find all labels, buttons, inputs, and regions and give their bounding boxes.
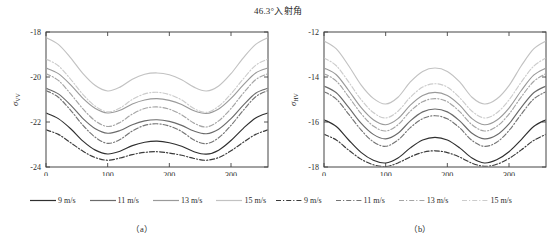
panel-b: -12-14-16-180100200300σHV风向/（°） <box>284 26 556 176</box>
x-tick-label: 200 <box>441 171 453 176</box>
legend-row: 9 m/s11 m/s13 m/s15 m/s9 m/s11 m/s13 m/s… <box>0 196 556 205</box>
y-tick-label: -12 <box>308 28 319 37</box>
legend-swatch-solid <box>30 197 56 204</box>
plot-area-a: -18-20-22-240100200300σVV风向/（°） <box>6 26 278 176</box>
legend-item[interactable]: 9 m/s <box>276 196 336 205</box>
legend: 9 m/s11 m/s13 m/s15 m/s9 m/s11 m/s13 m/s… <box>0 196 556 214</box>
legend-item[interactable]: 13 m/s <box>153 196 217 205</box>
series-line <box>324 134 546 166</box>
x-tick-label: 300 <box>503 171 515 176</box>
series-line <box>324 86 546 139</box>
y-axis-label: σHV <box>288 92 299 106</box>
x-tick-label: 0 <box>322 171 326 176</box>
y-tick-label: -18 <box>30 28 41 37</box>
caption-b: （b） <box>284 222 556 234</box>
legend-label: 13 m/s <box>181 196 203 205</box>
legend-label: 9 m/s <box>58 196 76 205</box>
x-tick-label: 0 <box>44 171 48 176</box>
y-tick-label: -24 <box>30 163 41 172</box>
x-tick-label: 300 <box>225 171 237 176</box>
panel-a: -18-20-22-240100200300σVV风向/（°） <box>6 26 278 176</box>
x-tick-label: 200 <box>163 171 175 176</box>
legend-item[interactable]: 15 m/s <box>216 196 276 205</box>
legend-swatch-dashdot <box>336 197 362 204</box>
y-axis-label: σVV <box>10 92 21 106</box>
figure-container: 46.3°入射角 -18-20-22-240100200300σVV风向/（°）… <box>0 0 556 244</box>
legend-swatch-dashdot <box>462 197 488 204</box>
x-tick-label: 100 <box>102 171 114 176</box>
caption-a: （a） <box>6 222 278 234</box>
legend-label: 15 m/s <box>490 196 512 205</box>
legend-swatch-solid <box>153 197 179 204</box>
legend-item[interactable]: 13 m/s <box>399 196 463 205</box>
legend-item[interactable]: 11 m/s <box>336 196 399 205</box>
y-tick-label: -16 <box>308 118 319 127</box>
legend-label: 11 m/s <box>364 196 385 205</box>
x-tick-label: 100 <box>380 171 392 176</box>
legend-label: 13 m/s <box>427 196 449 205</box>
legend-label: 15 m/s <box>244 196 266 205</box>
legend-swatch-solid <box>90 197 116 204</box>
legend-item[interactable]: 9 m/s <box>30 196 90 205</box>
figure-title: 46.3°入射角 <box>0 4 556 17</box>
legend-label: 9 m/s <box>304 196 322 205</box>
legend-label: 11 m/s <box>118 196 139 205</box>
y-tick-label: -22 <box>30 118 41 127</box>
legend-swatch-solid <box>216 197 242 204</box>
series-line <box>46 38 268 91</box>
y-tick-label: -18 <box>308 163 319 172</box>
plot-area-b: -12-14-16-180100200300σHV风向/（°） <box>284 26 556 176</box>
y-tick-label: -20 <box>30 73 41 82</box>
legend-swatch-dashdot <box>399 197 425 204</box>
legend-swatch-dashdot <box>276 197 302 204</box>
series-line <box>46 74 268 127</box>
series-line <box>46 130 268 160</box>
legend-item[interactable]: 15 m/s <box>462 196 526 205</box>
legend-item[interactable]: 11 m/s <box>90 196 153 205</box>
y-tick-label: -14 <box>308 73 319 82</box>
